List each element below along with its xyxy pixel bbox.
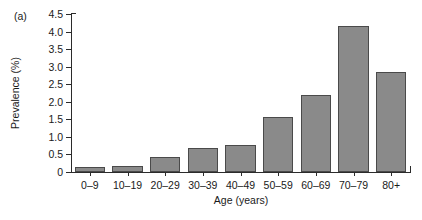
x-axis-tick (90, 172, 91, 176)
y-axis-tick (66, 32, 71, 33)
x-axis-tick-label: 40–49 (222, 179, 260, 191)
x-axis-tick (391, 172, 392, 176)
bar (338, 26, 368, 172)
y-axis-tick (66, 49, 71, 50)
x-axis-end-cap (410, 166, 411, 172)
x-axis-tick (278, 172, 279, 176)
y-axis-tick-label: 1.0 (30, 132, 63, 142)
bar (301, 95, 331, 172)
x-axis-tick-label: 0–9 (71, 179, 109, 191)
y-axis-tick-label: 3.5 (30, 44, 63, 54)
x-axis-tick (241, 172, 242, 176)
x-axis-tick-label: 70–79 (335, 179, 373, 191)
x-axis-tick-label: 20–29 (146, 179, 184, 191)
x-axis-tick (165, 172, 166, 176)
bar (112, 166, 142, 172)
y-axis-tick (66, 14, 71, 15)
x-axis-tick-label: 80+ (372, 179, 410, 191)
y-axis-title: Prevalence (%) (8, 14, 22, 172)
x-axis-tick-label: 60–69 (297, 179, 335, 191)
y-axis-tick-label: 4.0 (30, 27, 63, 37)
y-axis-tick-label: 0 (30, 167, 63, 177)
x-axis-tick (203, 172, 204, 176)
bar (75, 167, 105, 172)
x-axis-title: Age (years) (72, 194, 410, 206)
figure-panel-a: (a) Prevalence (%) 00.51.01.52.02.53.03.… (0, 0, 422, 220)
x-axis-tick-label: 50–59 (259, 179, 297, 191)
bar (263, 117, 293, 172)
y-axis-tick-label: 2.5 (30, 79, 63, 89)
x-axis-tick-label: 30–39 (184, 179, 222, 191)
y-axis-tick-label: 3.0 (30, 62, 63, 72)
bar (376, 72, 406, 172)
y-axis-tick-label: 1.5 (30, 114, 63, 124)
x-axis-tick (316, 172, 317, 176)
bar (188, 148, 218, 172)
y-axis-tick (66, 119, 71, 120)
x-axis-tick (128, 172, 129, 176)
x-axis-tick-label: 10–19 (109, 179, 147, 191)
y-axis-tick (66, 172, 71, 173)
y-axis-tick (66, 102, 71, 103)
bar (225, 145, 255, 172)
y-axis-spine (71, 13, 72, 173)
y-axis-tick (66, 67, 71, 68)
y-axis-tick-label: 0.5 (30, 149, 63, 159)
y-axis-top-cap (71, 13, 76, 14)
x-axis-tick (354, 172, 355, 176)
y-axis-tick-label: 4.5 (30, 9, 63, 19)
y-axis-title-text: Prevalence (%) (9, 57, 21, 129)
y-axis-tick-label: 2.0 (30, 97, 63, 107)
y-axis-tick (66, 84, 71, 85)
y-axis-tick (66, 137, 71, 138)
bar (150, 157, 180, 172)
y-axis-tick (66, 154, 71, 155)
